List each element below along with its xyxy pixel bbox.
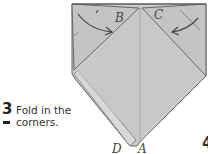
step-marker-bar (3, 121, 10, 124)
origami-step-diagram: B C D A 3 Fold in the corners. 4 (0, 0, 208, 154)
label-d: D (111, 142, 122, 154)
label-a: A (137, 142, 147, 154)
step-instruction: Fold in the corners. (16, 104, 71, 128)
instruction-line-2: corners. (16, 116, 71, 128)
next-step-number: 4 (202, 136, 208, 151)
origami-figure: B C D A (0, 0, 208, 154)
label-c: C (154, 8, 163, 22)
label-b: B (114, 11, 124, 25)
instruction-line-1: Fold in the (16, 104, 71, 116)
step-number: 3 (2, 102, 12, 117)
